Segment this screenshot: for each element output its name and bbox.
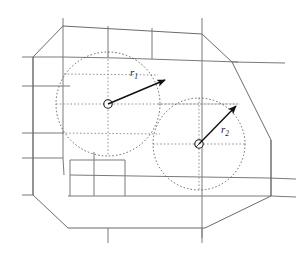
grid-h-11	[268, 178, 296, 179]
coverage-circle-layer	[56, 52, 245, 190]
center-node-layer	[104, 100, 203, 148]
grid-h-13	[271, 196, 296, 197]
grid-h-10	[70, 175, 268, 178]
radius-label-layer: r1r2	[130, 66, 229, 138]
guide-h-circle1-upper	[64, 74, 158, 75]
figure-canvas: r1r2	[0, 0, 301, 256]
grid-line-layer	[22, 18, 296, 243]
radius-arrow-2	[199, 106, 236, 144]
grid-v-2	[63, 158, 64, 175]
radius-arrow-layer	[108, 80, 236, 144]
radius-arrow-1	[108, 80, 165, 104]
radius-label-1: r1	[130, 66, 138, 81]
inner-dotted-guide-layer	[56, 52, 245, 190]
diagram-svg: r1r2	[0, 0, 301, 256]
guide-h-circle1-lower	[62, 133, 160, 134]
grid-h-7	[63, 57, 118, 58]
radius-label-2: r2	[221, 123, 229, 138]
grid-h-9	[232, 62, 285, 63]
